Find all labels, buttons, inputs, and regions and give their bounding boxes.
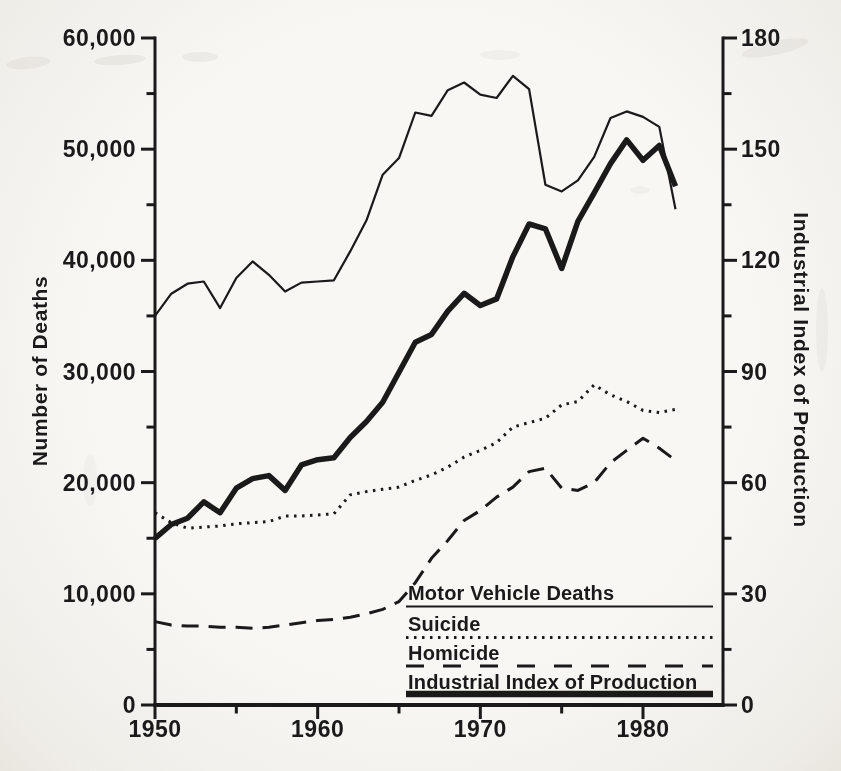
legend-label-motor-vehicle-deaths: Motor Vehicle Deaths	[408, 582, 614, 604]
left-axis-tick-label: 0	[123, 692, 136, 718]
right-axis-title: Industrial Index of Production	[790, 212, 813, 528]
left-axis-title: Number of Deaths	[28, 276, 51, 466]
right-axis-tick-label: 60	[741, 470, 768, 496]
scanned-chart-page: 010,00020,00030,00040,00050,00060,000030…	[0, 0, 841, 771]
right-axis-tick-label: 0	[741, 692, 754, 718]
left-axis-tick-label: 30,000	[63, 359, 136, 385]
legend-label-suicide: Suicide	[408, 613, 481, 635]
x-axis-tick-label: 1980	[616, 716, 669, 742]
series-suicide	[155, 385, 676, 528]
line-chart: 010,00020,00030,00040,00050,00060,000030…	[0, 0, 841, 771]
x-axis-tick-label: 1950	[128, 716, 181, 742]
legend: Motor Vehicle Deaths Suicide Homicide In…	[406, 582, 713, 694]
right-axis-tick-label: 90	[741, 359, 768, 385]
series-motor-vehicle-deaths	[155, 76, 676, 316]
left-axis-tick-label: 60,000	[63, 25, 136, 51]
right-axis-tick-label: 150	[741, 136, 781, 162]
right-axis-tick-label: 30	[741, 581, 768, 607]
x-axis-tick-label: 1960	[291, 716, 344, 742]
left-axis-tick-label: 20,000	[63, 470, 136, 496]
left-axis-tick-label: 50,000	[63, 136, 136, 162]
legend-label-industrial-index: Industrial Index of Production	[408, 671, 697, 693]
right-axis-tick-label: 120	[741, 247, 781, 273]
right-axis-tick-label: 180	[741, 25, 781, 51]
left-axis-tick-label: 10,000	[63, 581, 136, 607]
legend-label-homicide: Homicide	[408, 642, 500, 664]
left-axis-tick-label: 40,000	[63, 247, 136, 273]
series-layer	[155, 76, 676, 629]
x-axis-tick-label: 1970	[454, 716, 507, 742]
